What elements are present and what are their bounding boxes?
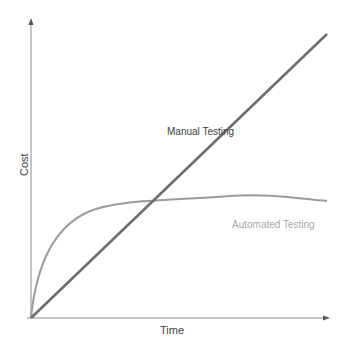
manual-testing-line: [31, 34, 327, 318]
cost-vs-time-chart: Manual Testing Automated Testing Time Co…: [0, 0, 346, 349]
x-axis: [27, 316, 330, 321]
manual-testing-label: Manual Testing: [167, 126, 234, 137]
x-axis-label: Time: [160, 324, 184, 336]
x-axis-arrow-icon: [323, 316, 330, 321]
automated-testing-label: Automated Testing: [232, 219, 315, 230]
y-axis-label: Cost: [18, 153, 30, 176]
y-axis-arrow-icon: [29, 18, 34, 25]
automated-testing-curve: [31, 195, 327, 318]
